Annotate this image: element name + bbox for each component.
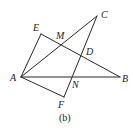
figure-caption: (b) (59, 112, 71, 124)
segment-AE (21, 34, 41, 77)
label-D: D (85, 46, 94, 57)
segment-AF (21, 77, 64, 97)
geometry-diagram: E M C D A B N F (b) (0, 0, 133, 131)
label-C: C (101, 9, 108, 20)
label-N: N (71, 79, 80, 90)
label-B: B (122, 73, 128, 84)
label-F: F (57, 99, 65, 110)
label-M: M (55, 30, 65, 41)
label-A: A (9, 72, 17, 83)
label-E: E (32, 22, 39, 33)
